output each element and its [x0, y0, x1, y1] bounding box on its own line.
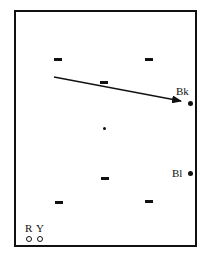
marker-label-r: R — [25, 223, 32, 234]
marker-ring-y — [37, 236, 43, 242]
dash-marker — [100, 81, 108, 84]
marker-ring-r — [26, 236, 32, 242]
dash-marker — [145, 58, 153, 61]
dash-marker — [55, 201, 63, 204]
marker-dot-bl — [188, 171, 193, 176]
marker-label-bk: Bk — [176, 86, 189, 97]
diagram-stage: Bk Bl R Y — [0, 0, 210, 262]
marker-dot-bk — [188, 101, 193, 106]
center-dot — [103, 127, 106, 130]
dash-marker — [54, 58, 62, 61]
dash-marker — [101, 177, 109, 180]
marker-label-bl: Bl — [172, 168, 182, 179]
dash-marker — [145, 200, 153, 203]
marker-label-y: Y — [36, 223, 44, 234]
